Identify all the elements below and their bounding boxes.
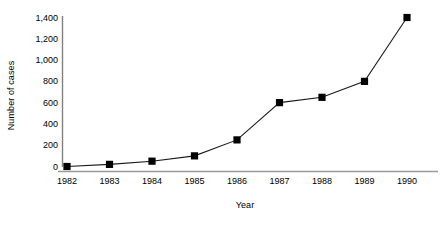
x-axis-tick-label: 1984: [130, 176, 174, 186]
data-point-marker: [361, 78, 368, 85]
x-axis-tick-label: 1983: [88, 176, 132, 186]
line-chart: Number of cases 02004006008001,0001,2001…: [0, 0, 444, 225]
plot-area: [0, 0, 444, 225]
x-axis-tick-label: 1989: [343, 176, 387, 186]
data-point-marker: [318, 94, 325, 101]
x-axis-tick-label: 1990: [385, 176, 429, 186]
data-point-marker: [148, 158, 155, 165]
x-axis-title: Year: [55, 200, 435, 210]
data-point-marker: [106, 161, 113, 168]
x-axis-tick-label: 1982: [45, 176, 89, 186]
data-point-marker: [403, 14, 410, 21]
data-markers: [63, 14, 410, 170]
x-axis-tick-label: 1987: [258, 176, 302, 186]
x-axis-tick-label: 1985: [173, 176, 217, 186]
data-point-marker: [276, 99, 283, 106]
x-axis-tick-label: 1986: [215, 176, 259, 186]
data-point-marker: [191, 152, 198, 159]
data-point-marker: [233, 136, 240, 143]
x-axis-tick-label: 1988: [300, 176, 344, 186]
data-point-marker: [63, 163, 70, 170]
data-line: [67, 18, 407, 167]
